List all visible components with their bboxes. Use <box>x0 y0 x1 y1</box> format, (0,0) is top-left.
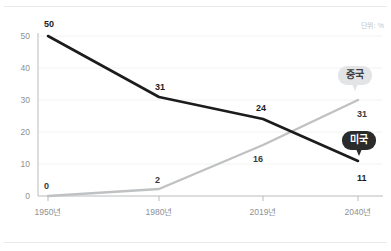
y-tick-30: 30 <box>12 96 30 105</box>
y-tick-40: 40 <box>12 64 30 73</box>
series-badge-usa[interactable]: 미국 <box>342 131 376 150</box>
x-tick-2040: 2040년 <box>336 208 380 217</box>
point-label-china-1950: 0 <box>44 182 49 191</box>
gridlines <box>38 36 382 164</box>
series-badge-china-tail <box>352 84 358 91</box>
x-tick-1950: 1950년 <box>26 208 70 217</box>
y-tick-50: 50 <box>12 32 30 41</box>
point-label-china-2040: 31 <box>357 110 367 119</box>
x-tick-1980: 1980년 <box>137 208 181 217</box>
point-label-usa-2019: 24 <box>256 104 266 113</box>
point-label-china-1980: 2 <box>155 176 160 185</box>
point-label-usa-2040: 11 <box>357 174 367 183</box>
series-line-usa <box>48 36 358 161</box>
point-label-china-2019: 16 <box>253 155 263 164</box>
chart-figure: 단위: % 50 40 30 20 10 0 1950년 1980년 2019년… <box>0 0 391 251</box>
y-tick-0: 0 <box>12 192 30 201</box>
axis-lines <box>38 33 383 196</box>
x-axis-ticks <box>48 196 358 201</box>
series-badge-china[interactable]: 중국 <box>338 66 372 85</box>
point-label-usa-1950: 50 <box>44 20 54 29</box>
point-label-usa-1980: 31 <box>155 83 165 92</box>
y-tick-20: 20 <box>12 128 30 137</box>
series-line-china <box>48 100 358 196</box>
x-tick-2019: 2019년 <box>241 208 285 217</box>
series-badge-usa-tail <box>356 149 362 156</box>
y-tick-10: 10 <box>12 160 30 169</box>
